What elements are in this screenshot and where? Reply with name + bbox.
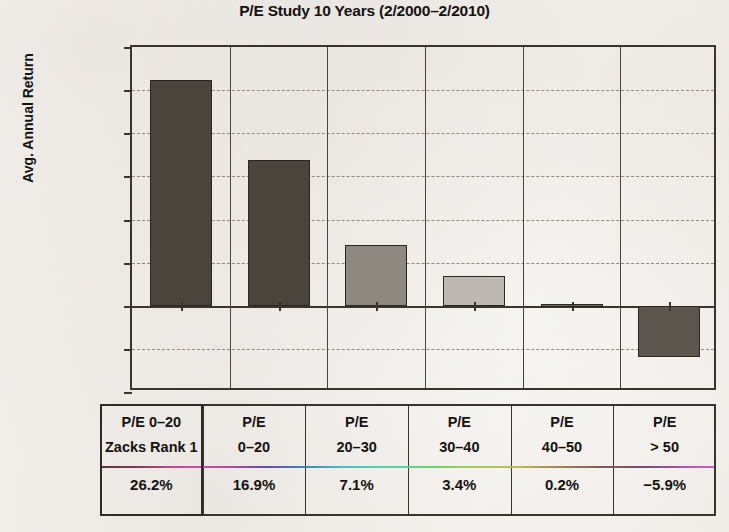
y-axis-tick (124, 47, 132, 49)
x-axis-tick (572, 302, 574, 311)
gridline (132, 176, 714, 177)
table-column-header: P/E 40–50 (511, 410, 614, 460)
y-axis-tick (124, 133, 132, 135)
table-column: P/E 0–2016.9% (203, 404, 306, 516)
category-separator (620, 47, 621, 388)
chart-title: P/E Study 10 Years (2/2000–2/2010) (0, 2, 729, 20)
table-column-value: 7.1% (305, 476, 408, 493)
table-column-header: P/E 0–20 (203, 410, 306, 460)
gridline (132, 133, 714, 134)
category-separator (327, 47, 328, 388)
plot-area (130, 45, 716, 390)
gridline (132, 90, 714, 91)
table-column-header: P/E 0–20 Zacks Rank 1 (100, 410, 203, 460)
table-header-divider (102, 466, 714, 468)
table-column: P/E 40–500.2% (511, 404, 614, 516)
y-axis-tick (124, 306, 132, 308)
gridline (132, 263, 714, 264)
category-separator (425, 47, 426, 388)
table-column-separator (305, 404, 306, 516)
y-axis-tick (124, 349, 132, 351)
gridline (132, 349, 714, 350)
table-column: P/E 20–307.1% (305, 404, 408, 516)
pe-study-bar-chart: P/E Study 10 Years (2/2000–2/2010) Avg. … (0, 0, 729, 532)
zero-line (132, 306, 714, 308)
table-column-header: P/E 30–40 (408, 410, 511, 460)
category-separator (230, 47, 231, 388)
category-separator (523, 47, 524, 388)
x-axis-tick (279, 302, 281, 311)
gridline (132, 220, 714, 221)
y-axis-tick (124, 220, 132, 222)
table-column-separator (613, 404, 614, 516)
y-axis-title: Avg. Annual Return (20, 8, 36, 228)
x-axis-tick (181, 302, 183, 311)
table-column: P/E 0–20 Zacks Rank 126.2% (100, 404, 203, 516)
table-column-value: 3.4% (408, 476, 511, 493)
y-axis-tick (124, 263, 132, 265)
bar (248, 160, 310, 306)
x-axis-tick (474, 302, 476, 311)
bar (150, 80, 212, 306)
bar (638, 306, 700, 357)
table-column-separator (408, 404, 409, 516)
table-column-separator (203, 404, 204, 516)
table-column: P/E > 50−5.9% (613, 404, 716, 516)
y-axis-tick (124, 392, 132, 394)
table-column-value: 26.2% (100, 476, 203, 493)
data-table: P/E 0–20 Zacks Rank 126.2%P/E 0–2016.9%P… (100, 404, 716, 516)
x-axis-tick (376, 302, 378, 311)
table-column-value: 0.2% (511, 476, 614, 493)
y-axis-tick (124, 90, 132, 92)
table-column-value: −5.9% (613, 476, 716, 493)
table-column-value: 16.9% (203, 476, 306, 493)
bar (345, 245, 407, 306)
x-axis-tick (669, 302, 671, 311)
table-column-separator (511, 404, 512, 516)
y-axis-tick (124, 176, 132, 178)
table-column: P/E 30–403.4% (408, 404, 511, 516)
table-column-header: P/E 20–30 (305, 410, 408, 460)
table-column-header: P/E > 50 (613, 410, 716, 460)
